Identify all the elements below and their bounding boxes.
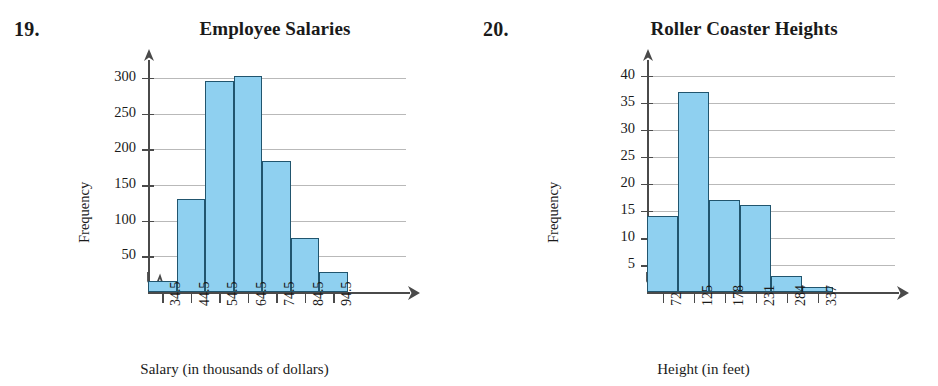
x-axis-tick: [333, 294, 335, 303]
x-axis-tick: [219, 294, 221, 303]
histogram-bar: [177, 199, 206, 292]
problem-20: 20. Roller Coaster Heights Frequency 510…: [469, 0, 938, 386]
y-axis-arrow-icon: [142, 49, 156, 63]
histogram-plot: 5010015020025030034.544.554.564.574.584.…: [0, 0, 469, 386]
y-axis-label: 25: [585, 147, 635, 164]
histogram-bar: [647, 216, 678, 292]
x-axis-tick: [162, 294, 164, 303]
histogram-bar: [678, 92, 709, 292]
y-axis-line: [148, 60, 150, 292]
histogram-bar: [234, 76, 263, 292]
y-axis-label: 200: [86, 139, 136, 156]
x-axis-label: 54.5: [225, 282, 241, 307]
x-axis-title: Height (in feet): [469, 361, 938, 378]
x-axis-label: 72: [669, 292, 685, 306]
x-axis-tick: [305, 294, 307, 303]
x-axis-label: 337: [824, 285, 840, 306]
y-axis-label: 150: [86, 175, 136, 192]
x-axis-label: 64.5: [254, 282, 270, 307]
x-axis-label: 125: [700, 285, 716, 306]
problem-19: 19. Employee Salaries Frequency 50100150…: [0, 0, 469, 386]
x-axis-tick: [694, 294, 696, 303]
x-axis-label: 74.5: [282, 282, 298, 307]
y-axis-label: 300: [86, 68, 136, 85]
y-axis-label: 35: [585, 93, 635, 110]
x-axis-line: [148, 292, 410, 294]
gridline: [148, 78, 406, 79]
x-axis-tick: [787, 294, 789, 303]
x-axis-label: 231: [762, 285, 778, 306]
y-axis-label: 100: [86, 211, 136, 228]
gridline: [647, 76, 895, 77]
histogram-bar: [262, 161, 291, 292]
gridline: [148, 114, 406, 115]
x-axis-tick: [248, 294, 250, 303]
x-axis-tick: [663, 294, 665, 303]
y-axis-label: 50: [86, 246, 136, 263]
y-axis-label: 20: [585, 174, 635, 191]
y-axis-label: 5: [585, 255, 635, 272]
x-axis-tick: [818, 294, 820, 303]
histogram-bar: [709, 200, 740, 292]
histogram-bar: [740, 205, 771, 292]
x-axis-label: 34.5: [168, 282, 184, 307]
y-axis-label: 10: [585, 228, 635, 245]
x-axis-tick: [725, 294, 727, 303]
x-axis-label: 284: [793, 285, 809, 306]
x-axis-arrow-icon: [897, 286, 911, 300]
x-axis-tick: [191, 294, 193, 303]
x-axis-label: 178: [731, 285, 747, 306]
histogram-plot: 51015202530354072125178231284337: [469, 0, 938, 386]
x-axis-tick: [756, 294, 758, 303]
y-axis-label: 250: [86, 104, 136, 121]
y-axis-label: 15: [585, 201, 635, 218]
y-axis-label: 40: [585, 66, 635, 83]
x-axis-label: 84.5: [311, 282, 327, 307]
gridline: [148, 149, 406, 150]
x-axis-tick: [276, 294, 278, 303]
x-axis-label: 44.5: [197, 282, 213, 307]
x-axis-label: 94.5: [339, 282, 355, 307]
x-axis-arrow-icon: [408, 286, 422, 300]
x-axis-title: Salary (in thousands of dollars): [0, 361, 469, 378]
histogram-bar: [205, 81, 234, 292]
y-axis-label: 30: [585, 120, 635, 137]
y-axis-arrow-icon: [641, 49, 655, 63]
